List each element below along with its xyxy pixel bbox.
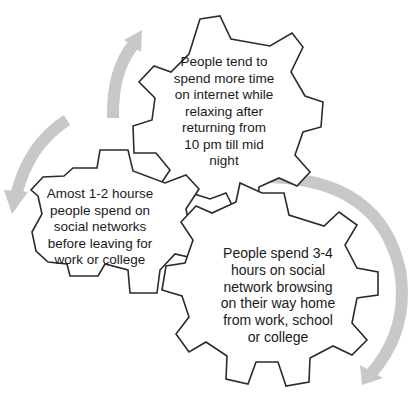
arrow-left-to-top — [113, 30, 142, 118]
gear-bottom-right-text: People spend 3-4 hours on social network… — [208, 245, 348, 346]
gear-left-text: Amost 1-2 hourse people spend on social … — [30, 186, 170, 269]
gear-top-text: People tend to spend more time on intern… — [160, 54, 288, 170]
